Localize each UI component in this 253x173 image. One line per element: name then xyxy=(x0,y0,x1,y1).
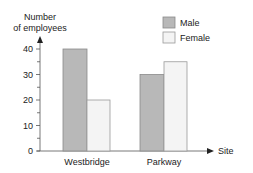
legend-label-male: Male xyxy=(180,18,200,28)
y-axis-label-line2: of employees xyxy=(13,23,67,33)
legend-label-female: Female xyxy=(180,33,210,43)
legend-swatch-male xyxy=(163,17,175,28)
bar-chart: Number of employees Site 0 10 20 30 40 W… xyxy=(0,0,253,173)
svg-text:20: 20 xyxy=(23,95,33,105)
legend-swatch-female xyxy=(163,32,175,43)
bar-parkway-female xyxy=(164,62,187,151)
svg-text:0: 0 xyxy=(28,146,33,156)
bars xyxy=(63,49,187,151)
bar-parkway-male xyxy=(140,75,164,152)
category-label-parkway: Parkway xyxy=(147,157,182,167)
y-axis-label-line1: Number xyxy=(24,12,56,22)
y-axis-arrow-icon xyxy=(37,36,43,43)
x-axis-label: Site xyxy=(218,146,234,156)
category-label-westbridge: Westbridge xyxy=(64,157,109,167)
svg-text:10: 10 xyxy=(23,121,33,131)
bar-westbridge-female xyxy=(87,100,110,151)
y-ticks xyxy=(36,49,40,151)
svg-text:30: 30 xyxy=(23,70,33,80)
x-axis-arrow-icon xyxy=(207,148,214,154)
y-tick-labels: 0 10 20 30 40 xyxy=(23,44,33,156)
bar-westbridge-male xyxy=(63,49,87,151)
legend: Male Female xyxy=(163,17,210,43)
svg-text:40: 40 xyxy=(23,44,33,54)
